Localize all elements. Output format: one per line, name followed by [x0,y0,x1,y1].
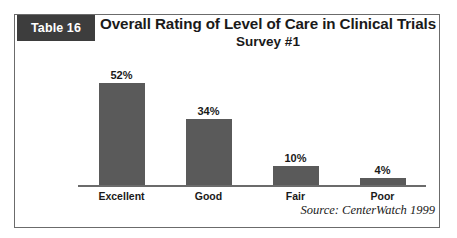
bar-slot: 34% [165,56,252,185]
bar-rect [186,119,232,186]
table-number-badge: Table 16 [17,15,95,41]
category-label-excellent: Excellent [78,190,165,202]
bar-rect [360,178,406,186]
figure-container: Table 16 Overall Rating of Level of Care… [0,0,457,238]
bar-slot: 4% [339,56,426,185]
plot-area: 52% 34% 10% 4% [78,56,426,187]
bar-value-label: 10% [284,152,306,164]
bar-value-label: 52% [110,69,132,81]
bar-slot: 10% [252,56,339,185]
x-axis-line [78,185,426,187]
category-label-poor: Poor [339,190,426,202]
bar-rect [273,166,319,186]
bar-slot: 52% [78,56,165,185]
category-label-good: Good [165,190,252,202]
chart-title: Overall Rating of Level of Care in Clini… [100,14,436,33]
bar-value-label: 4% [375,164,391,176]
bar-value-label: 34% [197,105,219,117]
table-number-label: Table 16 [31,21,81,35]
category-axis-labels: Excellent Good Fair Poor [78,190,426,202]
bar-rect [99,83,145,185]
source-note: Source: CenterWatch 1999 [301,203,435,218]
title-block: Overall Rating of Level of Care in Clini… [100,14,436,50]
bar-group: 52% 34% 10% 4% [78,56,426,185]
category-label-fair: Fair [252,190,339,202]
chart-subtitle: Survey #1 [100,34,436,50]
